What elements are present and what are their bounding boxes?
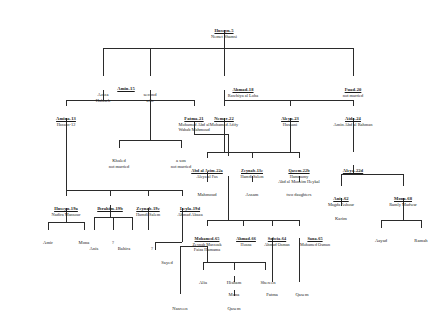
person-ahmad66[interactable]: Ahmad-66 Hosna	[236, 226, 256, 248]
person-name: Mohamed-65	[195, 237, 220, 242]
person-name: Nasreen	[172, 307, 187, 312]
person-name: Aleya-22d	[343, 169, 363, 174]
person-a-son[interactable]: a son not married	[171, 148, 192, 170]
person-name: Fatma	[266, 293, 278, 298]
person-abd-al-azim-22a[interactable]: Abd al Azim-22a Aleya al Fas	[191, 158, 223, 180]
connector-fatma21-link	[150, 100, 194, 101]
spouse-name: Nadira Mansour	[52, 213, 81, 218]
person-aayad[interactable]: Aayad	[375, 228, 387, 245]
person-name: Mona-68	[394, 197, 412, 202]
person-fatma21[interactable]: Fatma-21 Mohamed Abd al Wahab Mahmoud	[178, 106, 209, 133]
person-mona-left[interactable]: Mona	[79, 230, 90, 247]
person-mona68[interactable]: Mona-68 Ramly Madwar	[389, 186, 417, 208]
person-leyla19d[interactable]: Leyla-19d Ahmad Abaza	[177, 196, 202, 218]
person-sayed[interactable]: Sayed	[161, 250, 172, 267]
person-zeynab19c[interactable]: Zeynab-19c Hamdi Salem	[136, 196, 160, 218]
person-second-wife[interactable]: second wife	[143, 82, 156, 104]
spouse-name: Ahmad Osman	[264, 243, 289, 248]
person-nemer22[interactable]: Nemer-22 Mohamed Afify	[210, 106, 238, 128]
person-two-daughters[interactable]: two daughters	[287, 182, 312, 199]
person-ahmad18[interactable]: Ahmad-18 Rawhiya al Loha	[228, 77, 258, 99]
person-aleya22d[interactable]: Aleya-22d	[343, 158, 363, 175]
person-name: ?	[112, 241, 114, 246]
person-khaled[interactable]: Khaled not married	[109, 148, 130, 170]
person-name: Sayed	[161, 261, 172, 266]
person-name: Sobeia-64	[268, 237, 286, 242]
person-huseyn19a[interactable]: Huseyn-19a Nadira Mansour	[52, 196, 81, 218]
person-bahira[interactable]: Bahira	[118, 236, 131, 253]
person-name: second	[143, 93, 156, 98]
connector-ramah	[421, 220, 422, 228]
connector-anis-b	[94, 217, 95, 230]
person-mohamed65[interactable]: Mohamed-65 Zeynab Marzouk Faiza Hamama	[193, 226, 222, 253]
person-fatma-bottom[interactable]: Fatma	[266, 282, 278, 299]
person-name: Aayad	[375, 239, 387, 244]
spouse-name: Amin Abd al Rahman	[334, 123, 373, 128]
person-fuad20[interactable]: Fuad-20 not married	[343, 77, 364, 99]
spouse-name: Mohamed Osman	[300, 243, 330, 248]
spouse-name-2: Faiza Hamama	[193, 248, 222, 253]
person-name: Fatma-21	[184, 117, 203, 122]
person-sobeia64[interactable]: Sobeia-64 Ahmad Osman	[264, 226, 289, 248]
person-alia[interactable]: Alia	[199, 270, 207, 287]
person-aziza[interactable]: Aziza Halaseh	[96, 82, 110, 104]
connector-huseyn19a-bus	[48, 222, 84, 223]
person-name: Ahmad-18	[232, 88, 253, 93]
person-aleya23[interactable]: Aleya-23 Hussani	[281, 106, 299, 128]
connector-ahmad18-bus	[224, 100, 353, 101]
person-amina13[interactable]: Amina-13 Hassan-12	[56, 106, 76, 128]
person-name: Aleya-23	[281, 117, 299, 122]
person-sana65[interactable]: Sana-65 Mohamed Osman	[300, 226, 330, 248]
person-name: Khaled	[112, 159, 126, 164]
family-tree-diagram: Huseyn-5 Nemet Shamsi Amin-15 Aziza Hala…	[0, 0, 439, 317]
spouse-name: Halaseh	[96, 99, 110, 104]
person-name: Leyla-19d	[180, 207, 200, 212]
person-qasem-bottom[interactable]: Qasem	[295, 282, 308, 299]
person-name: Ramah	[414, 239, 427, 244]
connector-nasreen-stem	[180, 246, 181, 294]
person-name: Assam	[246, 193, 259, 198]
person-aida24[interactable]: Aida-24 Amin Abd al Rahman	[334, 106, 373, 128]
connector-shereen	[265, 262, 266, 270]
person-ibrahim19b[interactable]: Ibrahim-19b	[97, 196, 123, 213]
connector-mona68-bus	[381, 220, 421, 221]
spouse-name: wife	[143, 99, 156, 104]
spouse-name: Hosna	[236, 243, 256, 248]
person-name: Qasem-22b	[288, 169, 309, 174]
connector-mahmoud-down	[228, 176, 229, 220]
person-assam[interactable]: Assam	[246, 182, 259, 199]
spouse-name: not married	[343, 94, 364, 99]
connector-amra	[48, 222, 49, 230]
person-qasem-last[interactable]: Qasem	[227, 296, 240, 313]
connector-anis62	[341, 174, 342, 186]
person-name: Nemer-22	[214, 117, 234, 122]
connector-qmark2	[132, 217, 133, 230]
person-name: Mona	[79, 241, 90, 246]
connector-mona-l	[84, 222, 85, 230]
person-amin15[interactable]: Amin-15	[117, 76, 134, 93]
connector-secondwife-stem	[150, 100, 151, 140]
spouse-name: Hamdi Salem	[136, 213, 160, 218]
person-huseyn5[interactable]: Huseyn-5 Nemet Shamsi	[211, 18, 237, 40]
connector-secondwife-bus	[119, 140, 181, 141]
person-ramah[interactable]: Ramah	[414, 228, 427, 245]
person-amir[interactable]: Amir	[43, 230, 53, 247]
connector-gen1-d	[353, 48, 354, 76]
connector-gen4-bus	[66, 190, 182, 191]
person-question-2[interactable]: ?	[151, 236, 153, 253]
spouse-name: Mohamed Afify	[210, 123, 238, 128]
person-name: Amina-13	[56, 117, 76, 122]
connector-ason	[181, 140, 182, 148]
person-name: Huseyn-19a	[54, 207, 78, 212]
person-anis62[interactable]: Anis-62 Magda Ashour	[328, 186, 354, 208]
person-anis-b[interactable]: Anis	[90, 236, 99, 253]
connector-gen3-stem	[224, 138, 225, 152]
spouse-name: Aleya al Fas	[191, 175, 223, 180]
spouse-name: Ramly Madwar	[389, 203, 417, 208]
person-nasreen[interactable]: Nasreen	[172, 296, 187, 313]
person-question-1[interactable]: ?	[112, 230, 114, 247]
person-zeynab13c[interactable]: Zeynab-13c Hamdi Salem	[240, 158, 263, 180]
person-karim[interactable]: Karim	[335, 206, 347, 223]
person-qasem22b[interactable]: Qasem-22b Hammamy Abd al Moneim Heykal	[278, 158, 320, 185]
person-name: a son	[176, 159, 186, 164]
